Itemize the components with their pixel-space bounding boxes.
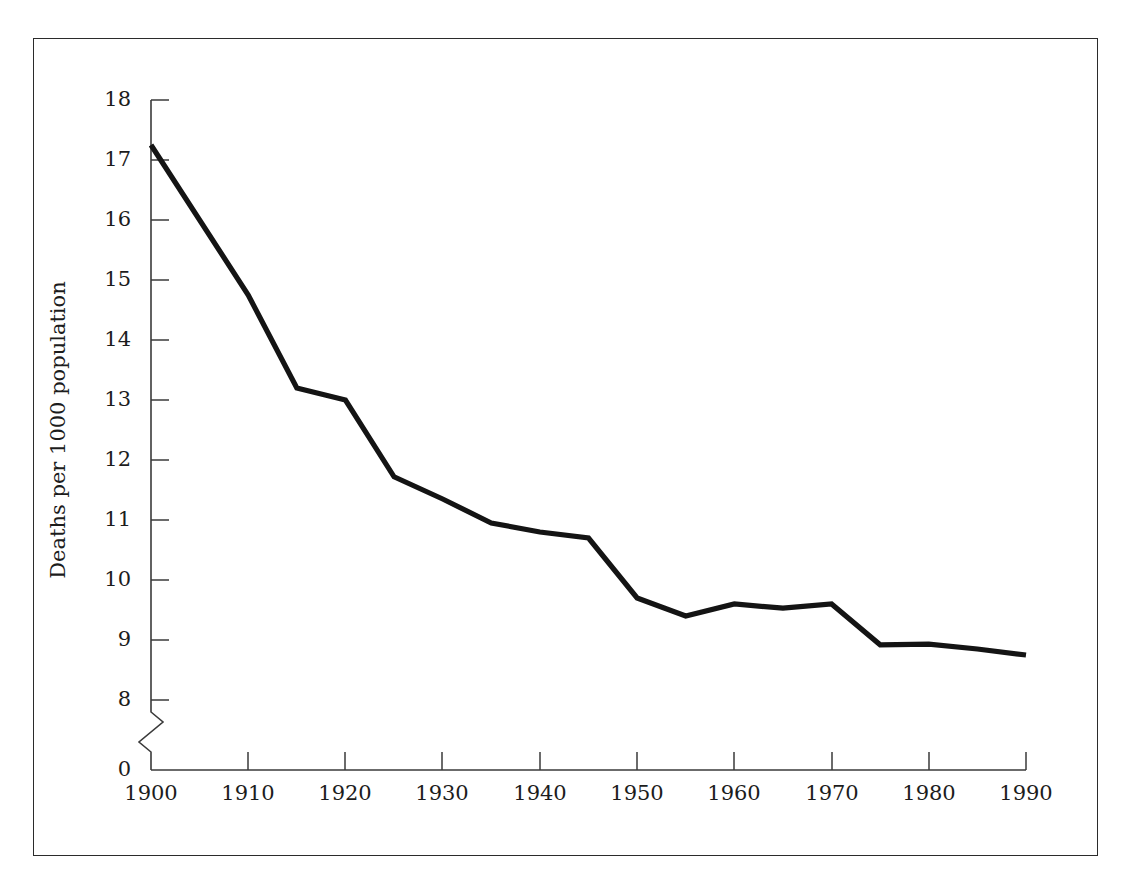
y-tick-label-17-wrap: 17 <box>67 149 131 171</box>
y-tick-label-12: 12 <box>104 449 131 470</box>
x-tick-label-1900-wrap: 1900 <box>96 783 206 809</box>
y-tick-label-16-wrap: 16 <box>67 209 131 231</box>
x-tick-label-1920-wrap: 1920 <box>290 783 400 809</box>
x-tick-label-1970-wrap: 1970 <box>777 783 887 809</box>
y-tick-label-13: 13 <box>104 389 131 410</box>
x-tick-label-1930: 1930 <box>387 783 497 804</box>
chart-canvas <box>0 0 1122 893</box>
y-tick-label-14-wrap: 14 <box>67 329 131 351</box>
y-tick-label-10-wrap: 10 <box>67 569 131 591</box>
x-tick-label-1900: 1900 <box>96 783 206 804</box>
x-tick-label-1960-wrap: 1960 <box>679 783 789 809</box>
x-tick-label-1920: 1920 <box>290 783 400 804</box>
y-tick-label-17: 17 <box>104 149 131 170</box>
y-tick-label-8-wrap: 8 <box>67 689 131 711</box>
death-rate-line-series <box>151 145 1026 655</box>
x-tick-label-1970: 1970 <box>777 783 887 804</box>
x-tick-label-1980-wrap: 1980 <box>874 783 984 809</box>
y-axis-title: Deaths per 1000 population <box>46 281 70 579</box>
y-tick-label-11: 11 <box>104 509 131 530</box>
y-tick-label-11-wrap: 11 <box>67 509 131 531</box>
y-tick-label-16: 16 <box>104 209 131 230</box>
x-tick-label-1990: 1990 <box>971 783 1081 804</box>
y-tick-label-0: 0 <box>118 759 131 780</box>
y-tick-label-18: 18 <box>104 89 131 110</box>
x-tick-label-1910: 1910 <box>193 783 303 804</box>
x-tick-label-1980: 1980 <box>874 783 984 804</box>
y-tick-label-9: 9 <box>118 629 131 650</box>
chart-page: 18 17 16 15 14 13 12 11 10 9 8 0 1900 19… <box>0 0 1122 893</box>
x-tick-label-1930-wrap: 1930 <box>387 783 497 809</box>
x-tick-label-1950-wrap: 1950 <box>582 783 692 809</box>
y-tick-label-12-wrap: 12 <box>67 449 131 471</box>
x-tick-label-1960: 1960 <box>679 783 789 804</box>
y-tick-label-10: 10 <box>104 569 131 590</box>
y-axis-break-zigzag <box>139 700 163 770</box>
y-tick-label-9-wrap: 9 <box>67 629 131 651</box>
y-tick-label-15-wrap: 15 <box>67 269 131 291</box>
x-tick-label-1950: 1950 <box>582 783 692 804</box>
x-tick-label-1990-wrap: 1990 <box>971 783 1081 809</box>
y-tick-label-18-wrap: 18 <box>67 89 131 111</box>
y-tick-label-0-wrap: 0 <box>67 759 131 781</box>
y-tick-label-14: 14 <box>104 329 131 350</box>
y-tick-label-15: 15 <box>104 269 131 290</box>
x-tick-label-1910-wrap: 1910 <box>193 783 303 809</box>
y-tick-label-8: 8 <box>118 689 131 710</box>
plot-area: 18 17 16 15 14 13 12 11 10 9 8 0 1900 19… <box>0 0 1122 893</box>
y-tick-label-13-wrap: 13 <box>67 389 131 411</box>
x-tick-label-1940: 1940 <box>485 783 595 804</box>
x-tick-label-1940-wrap: 1940 <box>485 783 595 809</box>
